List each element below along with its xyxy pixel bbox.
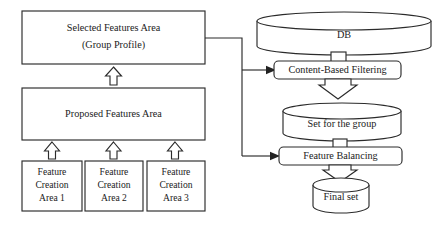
feature-creation-area-2-line3: Area 2 <box>101 192 127 203</box>
arrow-creation1-to-proposed-icon <box>45 142 60 159</box>
arrow-proposed-to-selected-icon <box>106 67 122 85</box>
set-for-the-group-label: Set for the group <box>308 118 377 129</box>
node-db: DB <box>257 12 431 55</box>
feature-creation-area-3-line1: Feature <box>162 166 191 177</box>
node-final-set: Final set <box>313 178 369 213</box>
feature-creation-area-2-line2: Creation <box>97 179 130 190</box>
feature-balancing-label: Feature Balancing <box>303 150 377 161</box>
arrow-creation2-to-proposed-icon <box>106 142 121 159</box>
node-set-for-the-group: Set for the group <box>283 103 401 141</box>
node-proposed-features-area: Proposed Features Area <box>22 88 205 140</box>
feature-creation-area-1-line1: Feature <box>38 166 67 177</box>
selected-features-area-label-line2: (Group Profile) <box>82 39 145 51</box>
node-selected-features-area: Selected Features Area (Group Profile) <box>22 11 205 64</box>
proposed-features-area-label: Proposed Features Area <box>65 108 162 119</box>
node-feature-creation-area-2: Feature Creation Area 2 <box>85 161 143 211</box>
node-feature-balancing: Feature Balancing <box>279 147 402 165</box>
connector-selected-to-right-column <box>205 38 280 160</box>
feature-creation-area-1-line2: Creation <box>35 179 68 190</box>
node-feature-creation-area-3: Feature Creation Area 3 <box>147 161 205 211</box>
node-content-based-filtering: Content-Based Filtering <box>274 61 401 79</box>
feature-creation-area-2-line1: Feature <box>100 166 129 177</box>
selected-features-area-label-line1: Selected Features Area <box>67 22 161 33</box>
diagram-canvas: Selected Features Area (Group Profile) P… <box>0 0 447 228</box>
feature-creation-area-3-line2: Creation <box>159 179 192 190</box>
flowchart-svg: Selected Features Area (Group Profile) P… <box>0 0 447 228</box>
final-set-label: Final set <box>324 191 359 202</box>
arrow-filtering-to-set-icon <box>319 79 357 99</box>
arrow-creation3-to-proposed-icon <box>168 142 183 159</box>
db-label: DB <box>337 29 351 40</box>
feature-creation-area-3-line3: Area 3 <box>163 192 189 203</box>
node-feature-creation-area-1: Feature Creation Area 1 <box>22 161 82 211</box>
feature-creation-area-1-line3: Area 1 <box>39 192 65 203</box>
content-based-filtering-label: Content-Based Filtering <box>288 64 386 75</box>
